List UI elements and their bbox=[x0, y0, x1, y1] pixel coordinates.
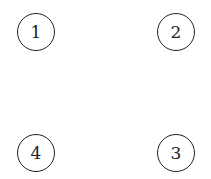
node-2-label: 2 bbox=[171, 22, 182, 42]
node-3: 3 bbox=[157, 134, 195, 172]
node-4: 4 bbox=[17, 134, 55, 172]
node-1: 1 bbox=[17, 13, 55, 51]
node-1-label: 1 bbox=[31, 22, 42, 42]
node-3-label: 3 bbox=[171, 143, 182, 163]
node-4-label: 4 bbox=[31, 143, 42, 163]
node-2: 2 bbox=[157, 13, 195, 51]
